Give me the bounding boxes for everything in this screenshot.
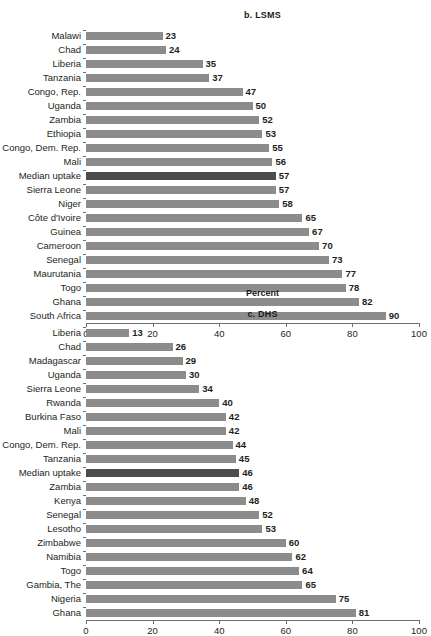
bar-value-label: 77 <box>345 267 356 280</box>
bar <box>86 525 262 533</box>
bar-value-label: 42 <box>229 410 240 423</box>
category-label: Togo <box>60 564 81 578</box>
category-tick <box>83 509 86 510</box>
bar <box>86 455 236 463</box>
category-label: Kenya <box>54 494 81 508</box>
x-axis-title-lsms: Percent <box>0 288 431 298</box>
category-label: Maurutania <box>33 267 81 281</box>
category-label: Côte d'Ivoire <box>28 211 81 225</box>
bar-value-label: 23 <box>166 29 177 42</box>
category-tick <box>83 100 86 101</box>
category-label: Cameroon <box>37 239 81 253</box>
category-tick <box>83 184 86 185</box>
bar-value-label: 67 <box>312 225 323 238</box>
bar <box>86 228 309 236</box>
bar-value-label: 24 <box>169 43 180 56</box>
category-tick <box>83 226 86 227</box>
x-axis-tick <box>286 620 287 624</box>
category-label: Zambia <box>49 113 81 127</box>
bar <box>86 497 246 505</box>
bar-value-label: 46 <box>242 466 253 479</box>
category-tick <box>83 212 86 213</box>
category-tick <box>83 58 86 59</box>
category-label: Zambia <box>49 480 81 494</box>
bar-value-label: 70 <box>322 239 333 252</box>
category-tick <box>83 383 86 384</box>
category-label: Congo, Dem. Rep. <box>2 438 81 452</box>
category-tick <box>83 481 86 482</box>
category-tick <box>83 439 86 440</box>
category-tick <box>83 156 86 157</box>
category-tick <box>83 369 86 370</box>
bar-value-label: 81 <box>359 606 370 619</box>
category-label: Median uptake <box>19 466 81 480</box>
x-axis-tick <box>219 620 220 624</box>
category-tick <box>83 86 86 87</box>
x-axis-tick <box>86 620 87 624</box>
category-tick <box>83 72 86 73</box>
x-axis-tick-label: 60 <box>281 625 292 636</box>
bar <box>86 242 319 250</box>
category-label: Gambia, The <box>26 578 81 592</box>
category-label: Uganda <box>48 99 81 113</box>
category-label: Sierra Leone <box>27 382 81 396</box>
panel-c-title: c. DHS <box>0 309 431 319</box>
bar-value-label: 13 <box>132 326 143 339</box>
bar <box>86 88 243 96</box>
bar-value-label: 53 <box>265 522 276 535</box>
category-tick <box>83 551 86 552</box>
category-tick <box>83 254 86 255</box>
bar-value-label: 46 <box>242 480 253 493</box>
bar <box>86 385 199 393</box>
category-tick <box>83 411 86 412</box>
x-axis-tick-label: 80 <box>347 625 358 636</box>
x-axis-tick <box>352 620 353 624</box>
bar <box>86 32 163 40</box>
category-tick <box>83 170 86 171</box>
category-label: Malawi <box>51 29 81 43</box>
bar <box>86 511 259 519</box>
category-tick <box>83 607 86 608</box>
bar <box>86 539 286 547</box>
bar-value-label: 30 <box>189 368 200 381</box>
category-label: Nigeria <box>51 592 81 606</box>
bar <box>86 441 233 449</box>
category-tick <box>83 495 86 496</box>
bar-value-label: 26 <box>176 340 187 353</box>
bar <box>86 74 209 82</box>
bar-value-label: 50 <box>256 99 267 112</box>
category-label: Mali <box>64 155 81 169</box>
bar-value-label: 45 <box>239 452 250 465</box>
x-axis-tick-label: 100 <box>411 625 427 636</box>
bar <box>86 186 276 194</box>
category-label: Niger <box>58 197 81 211</box>
x-axis-tick <box>153 620 154 624</box>
bar <box>86 357 183 365</box>
category-tick <box>83 114 86 115</box>
category-label: Chad <box>58 43 81 57</box>
bar <box>86 595 336 603</box>
bar <box>86 483 239 491</box>
bar-value-label: 65 <box>305 578 316 591</box>
category-label: Burkina Faso <box>25 410 81 424</box>
category-tick <box>83 355 86 356</box>
bar <box>86 343 173 351</box>
category-label: Guinea <box>50 225 81 239</box>
category-tick <box>83 327 86 328</box>
bar-value-label: 52 <box>262 508 273 521</box>
category-tick <box>83 565 86 566</box>
category-tick <box>83 240 86 241</box>
bar <box>86 609 356 617</box>
category-label: Tanzania <box>43 452 81 466</box>
bar <box>86 60 203 68</box>
category-tick <box>83 30 86 31</box>
category-label: Mali <box>64 424 81 438</box>
bar-value-label: 64 <box>302 564 313 577</box>
bar-value-label: 55 <box>272 141 283 154</box>
bar-value-label: 57 <box>279 183 290 196</box>
bar <box>86 158 272 166</box>
panel-lsms: b. LSMS Malawi23Chad24Liberia35Tanzania3… <box>0 0 431 300</box>
bar-value-label: 57 <box>279 169 290 182</box>
bar-highlight <box>86 469 239 477</box>
category-label: Ghana <box>52 606 81 620</box>
